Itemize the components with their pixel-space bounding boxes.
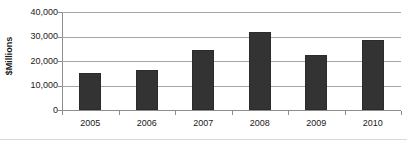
x-tick-label: 2010 [345, 118, 402, 129]
bar-2008 [249, 32, 271, 110]
x-tick-mark [288, 111, 289, 115]
x-tick-label: 2008 [232, 118, 289, 129]
x-tick-mark [232, 111, 233, 115]
bar-chart-figure: $Millions 40,000 30,000 20,000 10,000 0 … [0, 0, 407, 145]
gridline-10000 [62, 86, 401, 87]
x-tick-mark [119, 111, 120, 115]
y-tick-label: 30,000 [14, 32, 58, 41]
x-tick-label: 2009 [288, 118, 345, 129]
y-tick-label: 20,000 [14, 57, 58, 66]
bar-2006 [136, 70, 158, 110]
y-tick-label: 0 [14, 106, 58, 115]
x-tick-label: 2006 [119, 118, 176, 129]
gridline-20000 [62, 61, 401, 62]
plot-area [62, 12, 401, 110]
y-axis-title-label: $Millions [4, 37, 14, 76]
bar-2010 [362, 40, 384, 110]
x-tick-label: 2007 [175, 118, 232, 129]
x-tick-mark [345, 111, 346, 115]
x-tick-mark [62, 111, 63, 115]
y-tick-label: 10,000 [14, 81, 58, 90]
bar-2005 [79, 73, 101, 110]
y-tick-label: 40,000 [14, 8, 58, 17]
x-tick-label: 2005 [62, 118, 119, 129]
x-tick-mark [175, 111, 176, 115]
x-tick-mark [401, 111, 402, 115]
bar-2007 [192, 50, 214, 110]
gridline-40000 [62, 12, 401, 13]
bar-2009 [305, 55, 327, 110]
y-axis-tick-labels: 40,000 30,000 20,000 10,000 0 [14, 0, 58, 145]
gridline-30000 [62, 37, 401, 38]
bottom-divider [0, 139, 407, 140]
